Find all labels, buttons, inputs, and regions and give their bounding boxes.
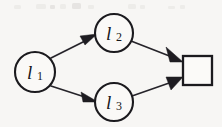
node-l3-subscript: 3 <box>116 99 122 113</box>
scan-artifact-group <box>14 3 185 9</box>
scan-smudge <box>50 5 55 9</box>
node-l1-label: l <box>27 62 32 83</box>
edge-line <box>132 82 172 96</box>
node-l1-circle[interactable] <box>15 52 55 92</box>
node-terminal[interactable] <box>183 56 212 85</box>
scan-smudge <box>128 4 136 9</box>
edge-l1-to-l3 <box>51 86 98 102</box>
scan-smudge <box>36 4 46 9</box>
node-l2[interactable]: l 2 <box>95 14 133 52</box>
node-l2-circle[interactable] <box>95 14 133 52</box>
node-l1-subscript: 1 <box>37 69 43 83</box>
scan-smudge <box>180 5 185 9</box>
node-l3-label: l <box>106 92 111 113</box>
node-l1[interactable]: l 1 <box>15 52 55 92</box>
node-l2-subscript: 2 <box>116 30 122 44</box>
scan-smudge <box>14 5 21 9</box>
graph-diagram: l 1 l 2 l 3 <box>0 0 222 127</box>
arrowhead-icon <box>166 77 183 90</box>
scan-smudge <box>88 5 94 9</box>
node-terminal-square[interactable] <box>183 56 212 85</box>
edge-l3-to-terminal <box>132 77 183 96</box>
node-l2-label: l <box>106 23 111 44</box>
node-l3-circle[interactable] <box>95 83 133 121</box>
scan-smudge <box>72 3 81 9</box>
arrowhead-icon <box>166 47 183 62</box>
scan-smudge <box>168 6 175 9</box>
edge-l1-to-l2 <box>51 34 97 58</box>
diagram-canvas: l 1 l 2 l 3 <box>0 0 222 127</box>
edge-line <box>131 41 172 57</box>
scan-smudge <box>60 4 66 9</box>
node-l3[interactable]: l 3 <box>95 83 133 121</box>
scan-smudge <box>140 5 145 9</box>
edge-l2-to-terminal <box>131 41 183 62</box>
